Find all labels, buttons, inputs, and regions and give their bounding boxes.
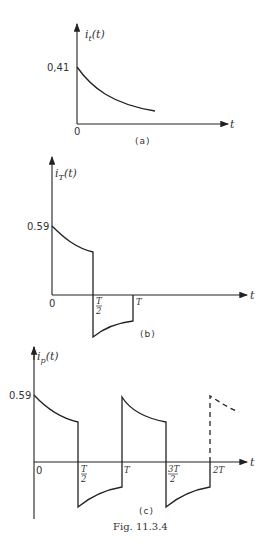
panel-b-waveform	[52, 226, 133, 337]
panel-b-xlabel: t	[250, 289, 255, 302]
svg-text:T: T	[81, 464, 88, 474]
panel-c-ytick-059: 0.59	[9, 390, 31, 401]
panel-c-dashed-continuation	[210, 396, 239, 462]
svg-text:2: 2	[80, 474, 86, 484]
svg-text:3T: 3T	[168, 464, 180, 474]
svg-text:2: 2	[95, 306, 101, 316]
panel-c-caption: (c)	[139, 506, 154, 516]
panel-b-ytick-059: 0.59	[27, 221, 49, 232]
panel-a-caption: (a)	[135, 136, 151, 146]
panel-b-xtick-period: T	[136, 297, 143, 307]
panel-c: ip(t) 0.59 0 T 2 T 3T 2 2T t (c)	[9, 347, 255, 519]
panel-c-xtick-period: T	[124, 465, 131, 475]
panel-b-origin-label: 0	[49, 298, 55, 309]
panel-b-caption: (b)	[140, 329, 156, 339]
panel-c-xlabel: t	[250, 456, 255, 469]
panel-c-periodic-waveform	[34, 395, 210, 507]
panel-a-ytick-041: 0,41	[47, 62, 69, 73]
svg-text:T: T	[96, 296, 103, 306]
panel-c-origin-label: 0	[36, 465, 42, 476]
panel-a-origin-label: 0	[74, 126, 80, 137]
panel-c-ylabel: ip(t)	[37, 350, 59, 365]
figure-caption: Fig. 11.3.4	[113, 521, 168, 532]
svg-text:2: 2	[169, 474, 175, 484]
panel-b: iT(t) 0.59 0 T 2 T t (b)	[27, 157, 255, 339]
panel-c-xtick-two-period: 2T	[212, 465, 225, 475]
panel-c-xtick-three-half-period: 3T 2	[168, 464, 180, 484]
panel-a-xlabel: t	[230, 118, 235, 131]
panel-a: it(t) 0,41 0 t (a)	[47, 24, 235, 146]
panel-c-xtick-half-period: T 2	[80, 464, 88, 484]
panel-a-decay-curve	[77, 67, 155, 111]
panel-a-ylabel: it(t)	[85, 28, 105, 43]
figure-canvas: it(t) 0,41 0 t (a) iT(t) 0.59 0 T 2 T t …	[0, 0, 275, 546]
panel-b-ylabel: iT(t)	[55, 167, 77, 182]
panel-b-xtick-half-period: T 2	[95, 296, 103, 316]
